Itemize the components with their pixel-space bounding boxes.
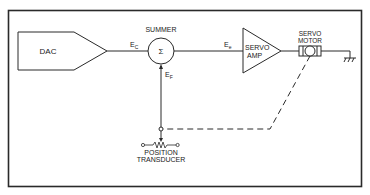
mechanical-coupling-line [163, 56, 310, 129]
wiper-arrow-icon [159, 138, 163, 142]
ee-label: Ee [224, 41, 232, 50]
feedback-arrow-icon [159, 64, 163, 69]
servo-amp-label-2: AMP [247, 52, 263, 59]
potentiometer-icon [141, 142, 179, 148]
dac-label: DAC [40, 47, 57, 56]
servo-motor-icon [299, 46, 321, 56]
dac-block [18, 32, 107, 70]
servo-amp-label-1: SERVO [245, 44, 270, 51]
servo-motor-label-1: SERVO [299, 30, 322, 37]
transducer-label-1: POSITION [144, 149, 177, 156]
servo-loop-diagram: DAC EC SUMMER Σ Ee SERVO AMP SERVO MOTOR… [0, 0, 370, 195]
wiper-node [159, 127, 163, 131]
transducer-label-2: TRANSDUCER [137, 156, 186, 163]
sigma-icon: Σ [159, 47, 164, 56]
ef-label: EF [165, 71, 173, 80]
servo-motor-label-2: MOTOR [298, 37, 322, 44]
ec-label: EC [130, 41, 139, 50]
summer-title: SUMMER [145, 26, 176, 33]
ground-icon [344, 58, 356, 62]
